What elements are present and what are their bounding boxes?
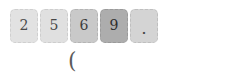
- keypad-key-label: 2: [20, 18, 29, 32]
- keypad-key-decimal-point[interactable]: .: [130, 9, 158, 43]
- keypad-key-label: 9: [110, 18, 119, 32]
- keypad-key-6[interactable]: 6: [70, 9, 98, 43]
- keypad-key-label: 6: [80, 18, 89, 32]
- keypad-key-5[interactable]: 5: [40, 9, 68, 43]
- keypad-key-9[interactable]: 9: [100, 9, 128, 43]
- open-parenthesis-glyph: (: [68, 50, 77, 72]
- keypad-key-label: 5: [50, 18, 59, 32]
- keypad-key-2[interactable]: 2: [10, 9, 38, 43]
- keypad-key-label: .: [141, 20, 146, 37]
- entry-row: (: [0, 48, 227, 80]
